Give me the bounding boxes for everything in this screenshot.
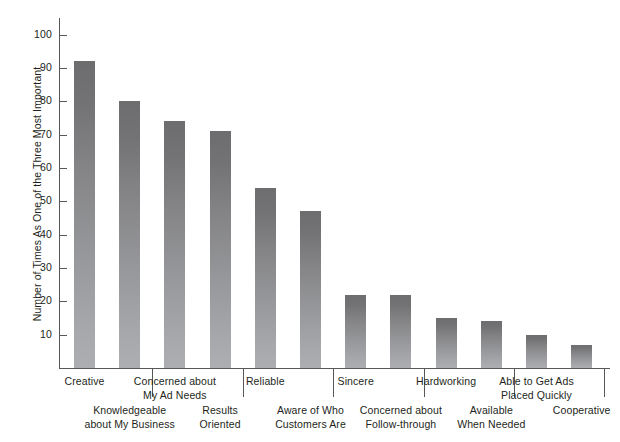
bar xyxy=(255,188,276,368)
bar xyxy=(390,295,411,368)
y-axis-tick-mark xyxy=(60,135,67,136)
bar xyxy=(164,121,185,368)
y-axis-tick-mark xyxy=(60,101,67,102)
y-axis-tick-label: 30 xyxy=(0,261,52,273)
y-axis-tick-mark xyxy=(60,301,67,302)
x-axis-category-label: Able to Get Ads Placed Quickly xyxy=(481,374,593,402)
y-axis-tick-mark xyxy=(60,335,67,336)
bar xyxy=(345,295,366,368)
bar xyxy=(436,318,457,368)
y-axis-tick-label: 20 xyxy=(0,294,52,306)
x-axis-separator xyxy=(604,369,605,397)
y-axis-tick-label: 90 xyxy=(0,61,52,73)
y-axis-tick-label: 50 xyxy=(0,194,52,206)
y-axis-tick-label: 80 xyxy=(0,94,52,106)
bar xyxy=(571,345,592,368)
bar xyxy=(300,211,321,368)
x-axis-line xyxy=(59,368,610,369)
x-axis-category-label: Cooperative xyxy=(526,403,620,417)
y-axis-tick-mark xyxy=(60,68,67,69)
bar-chart: Number of Times As One of the Three Most… xyxy=(0,0,620,442)
y-axis-tick-label: 40 xyxy=(0,228,52,240)
y-axis-tick-label: 10 xyxy=(0,328,52,340)
y-axis-tick-mark xyxy=(60,235,67,236)
y-axis-tick-mark xyxy=(60,168,67,169)
bar xyxy=(526,335,547,368)
bar xyxy=(481,321,502,368)
y-axis-tick-mark xyxy=(60,268,67,269)
y-axis-tick-mark xyxy=(60,201,67,202)
y-axis-tick-label: 100 xyxy=(0,28,52,40)
y-axis-line xyxy=(59,18,60,369)
bar xyxy=(210,131,231,368)
bar xyxy=(74,61,95,368)
y-axis-tick-label: 60 xyxy=(0,161,52,173)
y-axis-tick-mark xyxy=(60,35,67,36)
y-axis-tick-label: 70 xyxy=(0,128,52,140)
bar xyxy=(119,101,140,368)
